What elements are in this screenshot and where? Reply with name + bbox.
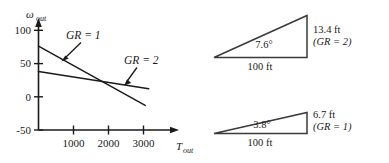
x-axis-arrowhead xyxy=(170,127,179,134)
lower-triangle: 3.8° 100 ft 6.7 ft (GR = 1) xyxy=(214,109,352,148)
x-tick-label-1000: 1000 xyxy=(63,137,86,149)
figure-root: 100 50 0 -50 1000 2000 3000 ω out T out xyxy=(0,0,389,163)
annotation-gr2: GR = 2 xyxy=(124,54,159,86)
upper-triangle-rise-label: 13.4 ft xyxy=(313,24,340,35)
x-axis-title-main: T xyxy=(176,140,183,152)
x-tick-label-2000: 2000 xyxy=(98,137,121,149)
annotation-gr2-leader xyxy=(127,68,138,83)
lower-triangle-angle-label: 3.8° xyxy=(253,119,270,130)
upper-triangle-gear-label: (GR = 2) xyxy=(313,36,352,48)
line-plot: 100 50 0 -50 1000 2000 3000 ω out T out xyxy=(15,8,195,155)
y-tick-label-100: 100 xyxy=(15,24,32,36)
upper-triangle-base-label: 100 ft xyxy=(248,61,273,72)
y-tick-label-50: 50 xyxy=(20,57,32,69)
slope-triangles: 7.6° 100 ft 13.4 ft (GR = 2) 3.8° 100 ft… xyxy=(214,16,352,148)
annotation-gr2-arrowhead xyxy=(124,79,131,85)
upper-triangle-outline xyxy=(214,16,307,58)
annotation-gr1-label: GR = 1 xyxy=(66,29,101,41)
x-tick-label-3000: 3000 xyxy=(133,137,156,149)
annotation-gr1-leader xyxy=(65,43,82,59)
y-tick-label-0: 0 xyxy=(26,91,32,103)
annotation-gr2-label: GR = 2 xyxy=(124,54,159,66)
y-tick-label-minus50: -50 xyxy=(16,124,31,136)
x-axis-title: T out xyxy=(176,140,194,155)
x-axis-title-sub: out xyxy=(183,146,194,155)
upper-triangle-angle-label: 7.6° xyxy=(255,39,272,50)
y-axis-title-main: ω xyxy=(26,8,34,20)
y-axis-title: ω out xyxy=(26,8,47,23)
y-axis xyxy=(35,18,42,130)
lower-triangle-gear-label: (GR = 1) xyxy=(313,121,352,133)
upper-triangle: 7.6° 100 ft 13.4 ft (GR = 2) xyxy=(214,16,352,72)
y-axis-title-sub: out xyxy=(36,14,47,23)
figure-canvas: 100 50 0 -50 1000 2000 3000 ω out T out xyxy=(0,0,389,163)
lower-triangle-base-label: 100 ft xyxy=(248,137,273,148)
annotation-gr1: GR = 1 xyxy=(62,29,101,62)
lower-triangle-rise-label: 6.7 ft xyxy=(313,109,335,120)
